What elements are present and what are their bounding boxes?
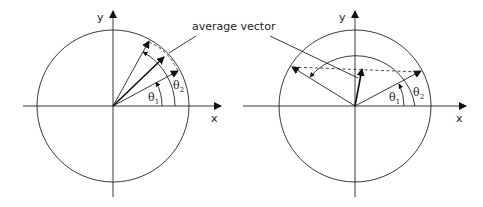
- left-theta1-label: θ1: [148, 91, 159, 106]
- right-theta2-label: θ2: [413, 86, 424, 101]
- average-vector-callout-label: average vector: [192, 20, 276, 33]
- left-theta2-label: θ2: [173, 79, 184, 94]
- left-x-label: x: [211, 112, 218, 125]
- right-average-vector: [355, 69, 362, 106]
- diagram-canvas: x y θ1 θ2 average vector x y θ1 θ2: [0, 0, 483, 207]
- left-y-label: y: [97, 11, 104, 24]
- right-dashed-chord: [293, 67, 420, 72]
- right-theta1-label: θ1: [389, 91, 400, 106]
- right-x-label: x: [456, 112, 463, 125]
- right-vector-2: [292, 67, 355, 106]
- right-vector-1: [355, 71, 421, 106]
- callout-leader-left: [169, 36, 196, 53]
- right-y-label: y: [339, 11, 346, 24]
